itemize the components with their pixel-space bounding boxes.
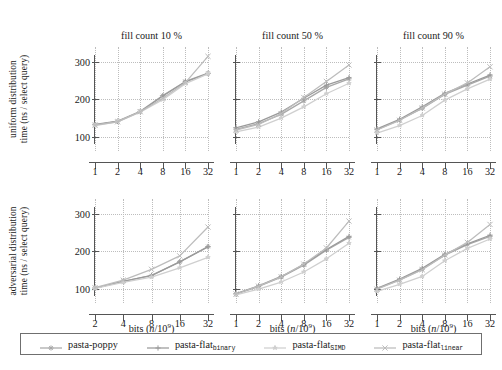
x-axis-tick-label: 4 xyxy=(279,166,284,177)
row-label-line2: time (ns / select query) xyxy=(19,24,30,174)
row-label-line1: uniform distribution xyxy=(8,24,19,174)
series-line xyxy=(236,243,349,295)
grid-line-vertical xyxy=(349,47,350,151)
x-axis-tick-label: 8 xyxy=(301,166,306,177)
x-axis-tick-label: 4 xyxy=(138,166,143,177)
series-line xyxy=(95,56,208,125)
x-axis-tick-label: 2 xyxy=(397,166,402,177)
series-layer xyxy=(377,47,490,151)
panel-title: fill count 50 % xyxy=(236,30,349,41)
legend-label: pasta-flatSIMD xyxy=(292,339,345,350)
x-axis xyxy=(371,314,496,315)
y-axis-tick-label: 200 xyxy=(75,246,90,257)
x-axis-tick-label: 2 xyxy=(256,166,261,177)
x-axis xyxy=(230,314,355,315)
series-line xyxy=(236,79,349,130)
series-line xyxy=(377,79,490,133)
x-axis xyxy=(230,162,355,163)
x-axis-tick-label: 4 xyxy=(420,166,425,177)
y-axis-tick-label: 100 xyxy=(75,131,90,142)
x-axis-tick-label: 8 xyxy=(442,166,447,177)
series-line xyxy=(236,236,349,293)
legend-item-pasta-flat-binary[interactable]: pasta-flatbinary xyxy=(146,339,235,350)
row-label-line1: adversarial distribution xyxy=(8,176,19,326)
grid-line-vertical xyxy=(208,199,209,303)
series-line xyxy=(95,247,208,288)
panel-uniform-10: fill count 10 %10020030012481632 xyxy=(95,47,208,151)
grid-line-vertical xyxy=(208,47,209,151)
series-line xyxy=(95,74,208,126)
series-line xyxy=(236,221,349,294)
row-label-uniform: uniform distribution time (ns / select q… xyxy=(8,24,30,174)
legend: pasta-poppypasta-flatbinarypasta-flatSIM… xyxy=(20,333,482,355)
x-axis xyxy=(89,162,214,163)
x-axis-tick-label: 32 xyxy=(344,166,354,177)
legend-label: pasta-poppy xyxy=(68,339,118,350)
series-line xyxy=(377,67,490,130)
series-line xyxy=(377,224,490,289)
series-layer xyxy=(377,199,490,303)
panel-title: fill count 10 % xyxy=(95,30,208,41)
legend-label: pasta-flatlinear xyxy=(402,339,462,350)
grid-line-vertical xyxy=(490,47,491,151)
series-line xyxy=(377,239,490,291)
series-line xyxy=(95,227,208,288)
y-axis-tick-label: 100 xyxy=(75,283,90,294)
legend-marker-star-icon xyxy=(263,339,287,349)
y-axis-tick-label: 200 xyxy=(75,94,90,105)
x-axis-tick-label: 8 xyxy=(160,166,165,177)
x-axis xyxy=(371,162,496,163)
x-axis-tick-label: 1 xyxy=(374,166,379,177)
panel-uniform-90: fill count 90 %12481632 xyxy=(377,47,490,151)
x-axis-tick-label: 2 xyxy=(115,166,120,177)
x-axis-tick-label: 1 xyxy=(92,166,97,177)
row-label-adversarial: adversarial distribution time (ns / sele… xyxy=(8,176,30,326)
row-label-line2: time (ns / select query) xyxy=(19,176,30,326)
legend-marker-plus-icon xyxy=(146,339,170,349)
legend-label: pasta-flatbinary xyxy=(175,339,235,350)
x-axis-tick-label: 1 xyxy=(233,166,238,177)
x-axis-tick-label: 16 xyxy=(321,166,331,177)
panel-title: fill count 90 % xyxy=(377,30,490,41)
series-layer xyxy=(236,199,349,303)
legend-marker-cross-icon xyxy=(373,339,397,349)
legend-item-pasta-flat-SIMD[interactable]: pasta-flatSIMD xyxy=(263,339,345,350)
x-axis-tick-label: 16 xyxy=(462,166,472,177)
x-axis-tick-label: 32 xyxy=(485,166,495,177)
series-layer xyxy=(236,47,349,151)
legend-item-pasta-flat-linear[interactable]: pasta-flatlinear xyxy=(373,339,462,350)
legend-item-pasta-poppy[interactable]: pasta-poppy xyxy=(39,339,118,350)
grid-line-vertical xyxy=(490,199,491,303)
series-layer xyxy=(95,199,208,303)
series-layer xyxy=(95,47,208,151)
y-axis-tick-label: 300 xyxy=(75,208,90,219)
panel-adversarial-90: 12481632bits (n/109) xyxy=(377,199,490,303)
series-line xyxy=(95,247,208,289)
legend-marker-asterisk-icon xyxy=(39,339,63,349)
x-axis-tick-label: 16 xyxy=(180,166,190,177)
grid-line-vertical xyxy=(349,199,350,303)
panel-adversarial-50: 12481632bits (n/109) xyxy=(236,199,349,303)
x-axis-tick-label: 32 xyxy=(203,166,213,177)
series-line xyxy=(236,65,349,130)
y-axis-tick-label: 300 xyxy=(75,56,90,67)
panel-uniform-50: fill count 50 %12481632 xyxy=(236,47,349,151)
figure-canvas: uniform distribution time (ns / select q… xyxy=(0,0,502,370)
panel-adversarial-10: 1002003002481632bits (n/109) xyxy=(95,199,208,303)
